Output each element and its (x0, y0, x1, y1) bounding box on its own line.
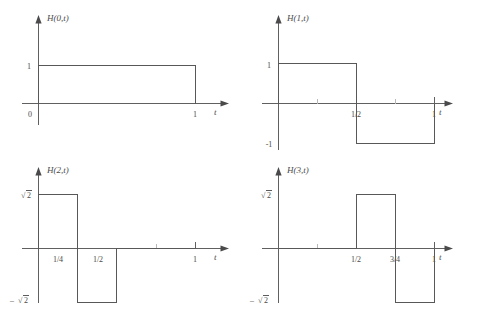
x-tick-label-half: 1/2 (351, 255, 361, 264)
y-tick-negroot2-radicand: 2 (24, 296, 28, 305)
y-tick-label-neg-root2: – √ 2 (249, 296, 269, 306)
x-axis-variable-label: t (214, 252, 217, 262)
x-tick-label-half: 1/2 (93, 255, 103, 264)
y-tick-label-1: 1 (27, 62, 31, 71)
x-tick-label-1: 1 (193, 110, 197, 119)
x-axis-variable-label: t (214, 107, 217, 117)
waveform-h0 (39, 66, 196, 104)
y-axis-arrow-icon (35, 15, 41, 24)
y-tick-label-root2: √ 2 (21, 191, 32, 201)
x-axis-variable-label: t (439, 107, 442, 117)
plot-h2: H(2,t) t √ 2 – √ 2 1/4 1/2 1 (0, 158, 241, 316)
y-tick-label-neg-root2: – √ 2 (9, 296, 29, 306)
y-tick-neg-sign: – (9, 296, 15, 305)
y-tick-label-neg1: -1 (266, 140, 273, 149)
x-tick-label-quarter: 1/4 (53, 255, 63, 264)
y-axis-arrow-icon (275, 15, 281, 24)
haar-wavelet-figure: H(0,t) t 1 0 1 H(1,t) t 1 -1 1/2 1 (0, 0, 481, 316)
function-label-h3: H(3,t) (286, 165, 309, 175)
y-axis-arrow-icon (275, 167, 281, 176)
function-label-h0: H(0,t) (46, 13, 69, 23)
svg-text:√: √ (258, 296, 263, 305)
y-axis-arrow-icon (35, 167, 41, 176)
x-axis-arrow-icon (221, 100, 230, 106)
plot-h1: H(1,t) t 1 -1 1/2 1 (241, 0, 481, 158)
y-tick-root2-radicand: 2 (267, 191, 271, 200)
svg-text:√: √ (261, 191, 266, 200)
svg-text:√: √ (18, 296, 23, 305)
y-tick-label-root2: √ 2 (261, 191, 272, 201)
x-axis-arrow-icon (445, 100, 454, 106)
function-label-h2: H(2,t) (46, 165, 69, 175)
x-tick-label-1: 1 (193, 255, 197, 264)
x-axis-arrow-icon (221, 245, 230, 251)
function-label-h1: H(1,t) (286, 13, 309, 23)
y-tick-neg-sign: – (249, 296, 255, 305)
x-axis-variable-label: t (439, 252, 442, 262)
plot-h0: H(0,t) t 1 0 1 (0, 0, 241, 158)
y-tick-label-1: 1 (267, 61, 271, 70)
x-tick-label-0: 0 (28, 110, 32, 119)
plot-h3: H(3,t) t √ 2 – √ 2 1/2 3/4 1 (241, 158, 481, 316)
y-tick-negroot2-radicand: 2 (264, 296, 268, 305)
svg-text:√: √ (21, 191, 26, 200)
x-axis-arrow-icon (445, 245, 454, 251)
y-tick-root2-radicand: 2 (27, 191, 31, 200)
